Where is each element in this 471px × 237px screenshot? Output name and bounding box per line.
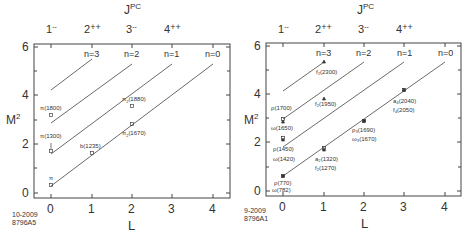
svg-text:ω₃(1670): ω₃(1670) <box>352 136 376 142</box>
svg-text:4: 4 <box>254 87 261 101</box>
svg-text:2++: 2++ <box>84 22 101 35</box>
svg-text:2: 2 <box>254 135 261 149</box>
footer-code: 8796A5 <box>12 219 36 226</box>
svg-text:n=2: n=2 <box>356 48 371 58</box>
svg-text:3: 3 <box>168 202 175 216</box>
svg-text:6: 6 <box>254 39 261 53</box>
y-axis-label: M2 <box>244 112 259 127</box>
jpc-title: JPC <box>357 2 374 17</box>
x-axis-label: L <box>361 216 368 231</box>
x-axis-label: L <box>128 218 135 233</box>
svg-text:n=1: n=1 <box>397 48 412 58</box>
svg-text:b(1235): b(1235) <box>80 143 101 149</box>
svg-text:ρ(770): ρ(770) <box>274 180 291 186</box>
svg-text:n=3: n=3 <box>316 48 331 58</box>
svg-text:f₂(1270): f₂(1270) <box>315 165 336 171</box>
marker-f2-1950 <box>323 97 326 100</box>
svg-text:2++: 2++ <box>315 22 332 35</box>
svg-text:2: 2 <box>360 200 367 214</box>
trajectory-n2 <box>51 64 132 123</box>
point-labels: π b(1235) π2(1670) π(1300) π2(1880) π(18… <box>40 96 146 181</box>
svg-text:π(1800): π(1800) <box>40 105 61 111</box>
svg-text:1: 1 <box>88 202 95 216</box>
svg-text:4++: 4++ <box>396 22 413 35</box>
footer-code: 8796A1 <box>244 215 268 222</box>
marker-rho770 <box>282 175 285 178</box>
marker-pi2-1880 <box>131 105 134 108</box>
jpc-tick-labels: 1-- 2++ 3-- 4++ <box>278 22 413 35</box>
trajectory-n0 <box>283 62 445 176</box>
footer-date: 9-2009 <box>244 207 266 214</box>
trajectory-lines <box>283 62 445 176</box>
svg-text:ω(1420): ω(1420) <box>273 156 295 162</box>
svg-text:π2(1670): π2(1670) <box>122 130 146 138</box>
svg-text:f₂(2300): f₂(2300) <box>316 69 337 75</box>
jpc-title: JPC <box>124 2 141 17</box>
svg-text:1--: 1-- <box>46 23 57 35</box>
svg-text:0: 0 <box>254 184 261 198</box>
n-labels: n=3 n=2 n=1 n=0 <box>316 48 453 58</box>
svg-text:f₂(1950): f₂(1950) <box>315 101 336 107</box>
svg-text:3--: 3-- <box>358 23 369 35</box>
left-panel: JPC 1-- 2++ 3-- 4++ 6 4 2 0 M2 0 1 2 <box>6 2 230 233</box>
point-labels: ρ(770) ω(782) a₂(1320) f₂(1270) ρ₃(1690)… <box>271 69 416 193</box>
y-axis-label: M2 <box>6 112 21 127</box>
svg-text:3--: 3-- <box>126 23 137 35</box>
n-labels: n=3 n=2 n=1 n=0 <box>84 49 220 59</box>
footer-date: 10-2009 <box>12 211 38 218</box>
svg-text:π: π <box>49 175 53 181</box>
svg-text:ρ(1450): ρ(1450) <box>273 146 294 152</box>
plot-frame <box>34 44 230 198</box>
svg-text:4: 4 <box>209 202 216 216</box>
marker-pi1800 <box>50 114 53 117</box>
svg-text:2: 2 <box>128 202 135 216</box>
svg-text:f₄(2050): f₄(2050) <box>393 107 414 113</box>
trajectory-n1 <box>283 62 404 147</box>
figure: JPC 1-- 2++ 3-- 4++ 6 4 2 0 M2 0 1 2 <box>0 0 471 237</box>
svg-text:1: 1 <box>320 200 327 214</box>
svg-text:π2(1880): π2(1880) <box>122 96 146 104</box>
svg-text:1--: 1-- <box>278 23 289 35</box>
svg-text:0: 0 <box>279 200 286 214</box>
svg-text:ω(1650): ω(1650) <box>271 125 293 131</box>
svg-text:n=2: n=2 <box>124 49 139 59</box>
svg-text:ω(782): ω(782) <box>272 187 291 193</box>
trajectory-n0 <box>51 64 213 186</box>
svg-text:n=1: n=1 <box>164 49 179 59</box>
svg-text:2: 2 <box>22 137 29 151</box>
svg-text:3: 3 <box>400 200 407 214</box>
svg-text:4: 4 <box>22 88 29 102</box>
svg-text:n=0: n=0 <box>205 49 220 59</box>
svg-text:ρ(1700): ρ(1700) <box>271 105 292 111</box>
svg-text:4++: 4++ <box>164 22 181 35</box>
data-markers <box>282 60 406 178</box>
svg-text:ρ₃(1690): ρ₃(1690) <box>352 127 375 133</box>
svg-text:a₄(2040): a₄(2040) <box>393 98 416 104</box>
marker-f2-2300 <box>323 60 326 63</box>
trajectory-n3 <box>51 59 92 90</box>
marker-rho3-1690 <box>363 120 366 123</box>
x-tick-labels: 0 1 2 3 4 <box>47 202 216 216</box>
x-tick-labels: 0 1 2 3 4 <box>279 200 448 214</box>
right-panel: JPC 1-- 2++ 3-- 4++ 6 4 2 0 M2 0 1 2 3 4 <box>244 2 461 231</box>
svg-text:n=3: n=3 <box>84 49 99 59</box>
svg-text:4: 4 <box>441 200 448 214</box>
marker-f2-1270 <box>323 148 326 151</box>
svg-text:0: 0 <box>22 186 29 200</box>
jpc-tick-labels: 1-- 2++ 3-- 4++ <box>46 22 181 35</box>
axis-ticks <box>34 44 230 198</box>
svg-text:n=0: n=0 <box>438 48 453 58</box>
svg-text:0: 0 <box>47 202 54 216</box>
svg-text:6: 6 <box>22 40 29 54</box>
trajectory-n3 <box>283 62 324 91</box>
svg-text:a₂(1320): a₂(1320) <box>315 156 338 162</box>
y-tick-labels: 6 4 2 0 <box>22 40 29 200</box>
marker-pi1300 <box>50 150 53 153</box>
marker-omega1420 <box>282 138 285 141</box>
svg-text:π(1300): π(1300) <box>40 133 61 139</box>
